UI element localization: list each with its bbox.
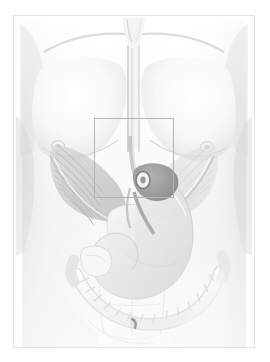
screenshot-page [0,0,270,362]
region-of-interest-box[interactable] [94,118,174,198]
illustration-canvas-wrapper [14,16,254,347]
illustration-frame [13,15,255,348]
plate-caption [13,350,255,360]
